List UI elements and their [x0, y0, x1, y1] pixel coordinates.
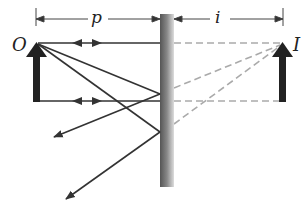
image-arrow	[272, 42, 293, 102]
label-i: i	[215, 9, 220, 26]
plane-mirror-diagram: p i O I	[0, 0, 307, 212]
diagram-canvas	[0, 0, 307, 212]
object-arrow	[26, 42, 47, 102]
label-image: I	[293, 36, 300, 54]
label-p: p	[91, 9, 102, 26]
label-object: O	[12, 36, 27, 54]
virtual-rays	[174, 43, 280, 124]
real-rays	[38, 43, 160, 199]
dimension-i	[174, 8, 283, 26]
plane-mirror	[160, 14, 174, 187]
